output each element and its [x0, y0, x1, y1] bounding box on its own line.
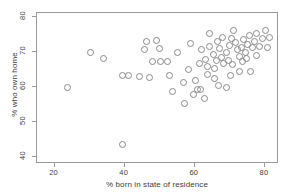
x-tick-mark: [54, 163, 55, 167]
y-tick-mark: [32, 51, 36, 52]
y-tick-label: 40: [18, 147, 27, 163]
y-tick-mark: [32, 16, 36, 17]
y-tick-label: 60: [18, 77, 27, 93]
y-tick-mark: [32, 121, 36, 122]
scatter-plot-figure: % born in state of residence % who own h…: [0, 0, 290, 195]
x-tick-mark: [124, 163, 125, 167]
x-tick-label: 60: [182, 168, 206, 177]
y-tick-mark: [32, 156, 36, 157]
y-tick-label: 80: [18, 7, 27, 23]
x-tick-label: 40: [112, 168, 136, 177]
plot-frame: [36, 12, 278, 163]
y-tick-mark: [32, 86, 36, 87]
y-tick-label: 70: [18, 42, 27, 58]
x-axis-label: % born in state of residence: [36, 180, 278, 189]
x-tick-mark: [194, 163, 195, 167]
x-tick-mark: [264, 163, 265, 167]
x-tick-label: 80: [252, 168, 276, 177]
x-tick-label: 20: [42, 168, 66, 177]
y-tick-label: 50: [18, 112, 27, 128]
